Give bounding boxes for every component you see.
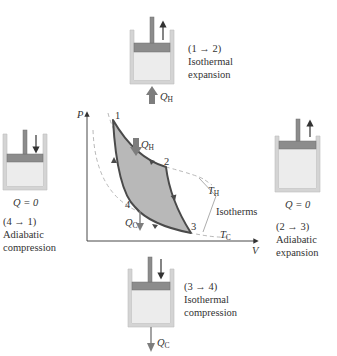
top-stage-line2: expansion <box>188 68 231 81</box>
carnot-diagram <box>0 0 337 356</box>
bottom-stage-line2: compression <box>184 306 237 319</box>
cylinder-left <box>3 130 47 190</box>
tc-label: TC <box>220 228 231 244</box>
point-label-2: 2 <box>164 155 169 168</box>
cylinder-right <box>275 119 320 192</box>
right-stage-line1: Adiabatic <box>276 233 317 246</box>
v-axis-label: V <box>252 244 258 257</box>
right-heat-label: Q = 0 <box>285 198 310 211</box>
isotherms-label: Isotherms <box>216 205 257 218</box>
point-label-4: 4 <box>125 198 130 211</box>
top-heat-label: QH <box>160 90 173 106</box>
right-stage-step: (2 → 3) <box>276 220 309 233</box>
bottom-heat-label: QC <box>157 336 170 352</box>
heat-in-arrow-icon <box>146 86 158 104</box>
pv-graph <box>87 113 256 241</box>
th-label: TH <box>208 184 219 200</box>
top-stage-line1: Isothermal <box>188 55 233 68</box>
heat-out-arrow-icon <box>147 327 155 352</box>
left-stage-step: (4 → 1) <box>3 215 36 228</box>
bottom-stage-step: (3 → 4) <box>184 280 217 293</box>
cylinder-bottom <box>128 257 174 327</box>
cylinder-top <box>130 17 174 84</box>
left-heat-label: Q = 0 <box>13 196 38 209</box>
p-axis-label: P <box>77 108 83 121</box>
left-stage-line1: Adiabatic <box>3 228 44 241</box>
point-label-3: 3 <box>191 220 196 233</box>
graph-qh-label: QH <box>141 138 154 154</box>
graph-qc-label: QC <box>125 216 138 232</box>
right-stage-line2: expansion <box>276 246 319 259</box>
point-label-1: 1 <box>115 109 120 122</box>
left-stage-line2: compression <box>3 241 56 254</box>
top-stage-step: (1 → 2) <box>188 42 221 55</box>
bottom-stage-line1: Isothermal <box>184 293 229 306</box>
